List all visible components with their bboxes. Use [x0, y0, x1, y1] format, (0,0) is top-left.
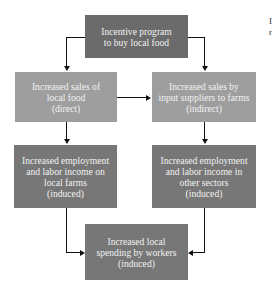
connector-line	[66, 208, 67, 253]
connector-line	[204, 208, 205, 253]
node-direct-sales: Increased sales of local food (direct)	[15, 72, 117, 122]
node-label: Incentive program to buy local food	[101, 26, 172, 48]
arrowhead-left-icon	[188, 250, 193, 256]
fragment-line-1: I	[269, 16, 272, 27]
node-label: Increased employment and labor income on…	[22, 155, 109, 199]
connector-line	[66, 37, 85, 38]
node-farm-employment: Increased employment and labor income on…	[14, 145, 117, 208]
arrowhead-down-icon	[64, 139, 70, 144]
node-label: Increased local spending by workers (ind…	[97, 236, 177, 269]
arrowhead-down-icon	[202, 139, 208, 144]
arrowhead-down-icon	[64, 66, 70, 71]
connector-line	[66, 37, 67, 67]
node-label: Increased sales of local food (direct)	[32, 81, 100, 114]
cropped-text-fragment: I r	[269, 16, 272, 38]
connector-line	[193, 252, 205, 253]
node-label: Increased employment and labor income in…	[160, 155, 247, 199]
node-incentive-program: Incentive program to buy local food	[85, 15, 188, 58]
connector-line	[204, 122, 205, 139]
node-indirect-sales: Increased sales by input suppliers to fa…	[152, 72, 256, 122]
arrowhead-right-icon	[146, 95, 151, 101]
fragment-line-2: r	[269, 27, 272, 38]
arrowhead-right-icon	[80, 250, 85, 256]
connector-line	[204, 37, 205, 67]
connector-line	[188, 37, 204, 38]
node-label: Increased sales by input suppliers to fa…	[159, 81, 250, 114]
connector-line	[117, 97, 147, 98]
node-other-employment: Increased employment and labor income in…	[152, 145, 256, 208]
node-local-spending: Increased local spending by workers (ind…	[85, 224, 188, 280]
arrowhead-down-icon	[202, 66, 208, 71]
connector-line	[66, 122, 67, 139]
connector-line	[66, 252, 80, 253]
